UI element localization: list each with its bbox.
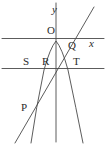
y-axis-label: y <box>52 4 57 15</box>
point-label-t: T <box>73 56 80 67</box>
figure-canvas <box>0 0 111 145</box>
point-label-r: R <box>42 56 49 67</box>
geometry-figure: y x O Q S R T P <box>0 0 111 145</box>
point-label-q: Q <box>68 40 76 51</box>
x-axis-label: x <box>89 38 94 49</box>
point-label-o: O <box>47 25 55 36</box>
point-label-s: S <box>23 56 29 67</box>
point-label-p: P <box>21 102 27 113</box>
